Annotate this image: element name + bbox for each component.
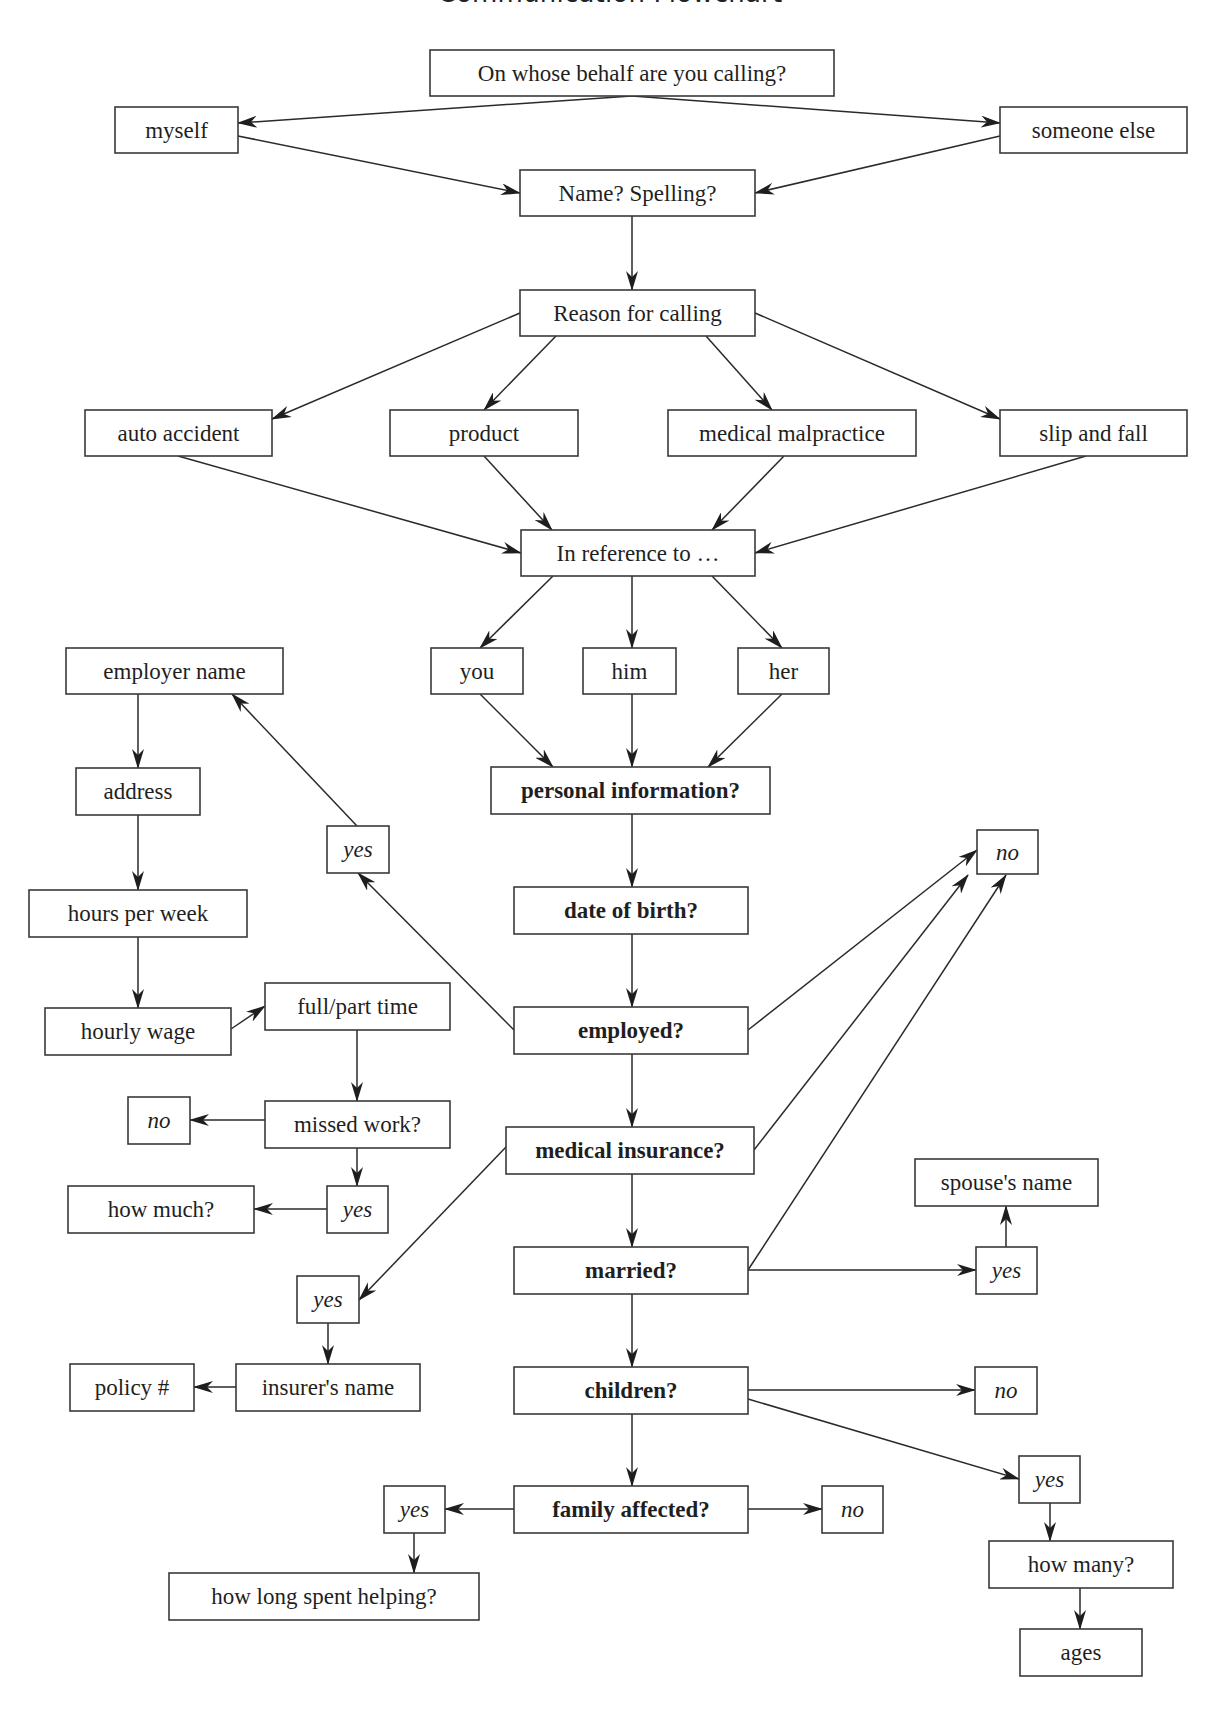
- node-label: Reason for calling: [553, 301, 722, 326]
- arrow-malpractice-to-reference: [712, 456, 784, 530]
- node-howmany: how many?: [989, 1541, 1173, 1588]
- node-label: missed work?: [294, 1112, 421, 1137]
- arrow-married-to-no_top: [748, 875, 1006, 1270]
- node-yes_emp: yes: [327, 826, 389, 873]
- arrow-behalf-to-myself: [238, 96, 632, 123]
- arrow-wage-to-fullpart: [231, 1006, 265, 1029]
- node-label: full/part time: [297, 994, 418, 1019]
- node-label: employer name: [103, 659, 245, 684]
- arrow-her-to-personal: [708, 694, 782, 767]
- node-label: medical insurance?: [535, 1138, 725, 1163]
- node-no_family: no: [822, 1486, 883, 1533]
- node-label: no: [148, 1108, 171, 1133]
- node-label: her: [769, 659, 799, 684]
- node-name: Name? Spelling?: [520, 170, 755, 216]
- node-label: yes: [1033, 1467, 1064, 1492]
- node-label: yes: [341, 1197, 372, 1222]
- node-label: Name? Spelling?: [559, 181, 717, 206]
- node-missed: missed work?: [265, 1101, 450, 1148]
- arrow-employed-to-no_top: [748, 850, 977, 1030]
- node-label: yes: [990, 1258, 1021, 1283]
- node-employed: employed?: [514, 1007, 748, 1054]
- node-no_children: no: [975, 1367, 1037, 1414]
- node-yes_ins: yes: [297, 1276, 359, 1323]
- node-family: family affected?: [514, 1486, 748, 1533]
- node-slip: slip and fall: [1000, 410, 1187, 456]
- node-children: children?: [514, 1367, 748, 1414]
- arrow-yes_emp-to-employer: [232, 694, 357, 826]
- node-yes_family: yes: [384, 1486, 445, 1533]
- node-label: employed?: [578, 1018, 684, 1043]
- node-personal: personal information?: [491, 767, 770, 814]
- node-label: you: [460, 659, 495, 684]
- node-no_top: no: [977, 830, 1038, 874]
- node-label: married?: [585, 1258, 677, 1283]
- node-reference: In reference to …: [521, 530, 755, 576]
- node-label: how long spent helping?: [211, 1584, 437, 1609]
- node-label: how much?: [108, 1197, 215, 1222]
- node-label: no: [841, 1497, 864, 1522]
- arrow-reason-to-auto: [272, 313, 520, 419]
- node-label: date of birth?: [564, 898, 698, 923]
- node-policy: policy #: [70, 1364, 194, 1411]
- node-label: In reference to …: [557, 541, 720, 566]
- node-label: children?: [585, 1378, 678, 1403]
- node-insurance: medical insurance?: [506, 1127, 754, 1174]
- node-behalf: On whose behalf are you calling?: [430, 50, 834, 96]
- arrow-slip-to-reference: [755, 456, 1086, 553]
- node-spouse: spouse's name: [915, 1159, 1098, 1206]
- node-label: hours per week: [68, 901, 209, 926]
- node-reason: Reason for calling: [520, 290, 755, 336]
- arrow-product-to-reference: [484, 456, 552, 530]
- node-him: him: [583, 648, 676, 694]
- node-auto: auto accident: [85, 410, 272, 456]
- node-label: family affected?: [552, 1497, 710, 1522]
- arrow-insurance-to-no_top: [754, 875, 968, 1150]
- arrow-reason-to-slip: [755, 313, 1000, 419]
- node-label: auto accident: [118, 421, 241, 446]
- node-label: On whose behalf are you calling?: [478, 61, 786, 86]
- node-label: myself: [145, 118, 208, 143]
- node-label: yes: [341, 837, 372, 862]
- arrow-reference-to-her: [712, 576, 782, 648]
- node-helping: how long spent helping?: [169, 1573, 479, 1620]
- node-label: medical malpractice: [699, 421, 885, 446]
- node-employer: employer name: [66, 648, 283, 694]
- node-dob: date of birth?: [514, 887, 748, 934]
- node-label: insurer's name: [262, 1375, 395, 1400]
- node-label: how many?: [1028, 1552, 1135, 1577]
- node-label: hourly wage: [81, 1019, 195, 1044]
- node-label: yes: [311, 1287, 342, 1312]
- arrow-someone-to-name: [755, 136, 1000, 193]
- node-label: slip and fall: [1039, 421, 1148, 446]
- arrow-myself-to-name: [238, 136, 520, 193]
- node-someone: someone else: [1000, 107, 1187, 153]
- arrow-reason-to-malpractice: [706, 336, 772, 410]
- arrow-reference-to-you: [480, 576, 553, 648]
- node-wage: hourly wage: [45, 1008, 231, 1055]
- node-malpractice: medical malpractice: [668, 410, 916, 456]
- arrow-behalf-to-someone: [632, 96, 1000, 123]
- arrow-reason-to-product: [484, 336, 556, 410]
- node-label: policy #: [95, 1375, 170, 1400]
- node-label: someone else: [1032, 118, 1155, 143]
- node-label: personal information?: [521, 778, 740, 803]
- node-yes_married: yes: [976, 1247, 1037, 1294]
- arrow-you-to-personal: [480, 694, 553, 767]
- node-label: address: [104, 779, 173, 804]
- node-yes_children: yes: [1019, 1456, 1080, 1503]
- flowchart-nodes: On whose behalf are you calling?myselfso…: [29, 50, 1187, 1676]
- node-fullpart: full/part time: [265, 983, 450, 1030]
- node-howmuch: how much?: [68, 1186, 254, 1233]
- node-label: him: [612, 659, 648, 684]
- node-married: married?: [514, 1247, 748, 1294]
- node-her: her: [738, 648, 829, 694]
- node-product: product: [390, 410, 578, 456]
- node-label: yes: [398, 1497, 429, 1522]
- node-you: you: [431, 648, 523, 694]
- node-ages: ages: [1020, 1629, 1142, 1676]
- node-yes_missed: yes: [327, 1186, 388, 1233]
- node-label: product: [449, 421, 520, 446]
- node-label: no: [996, 840, 1019, 865]
- node-myself: myself: [115, 107, 238, 153]
